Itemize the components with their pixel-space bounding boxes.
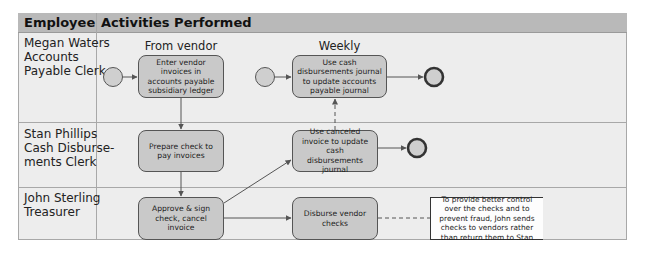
end-event-1 [425, 68, 443, 86]
activity-prepare-check: Prepare check to pay invoices [138, 130, 224, 172]
annotation-note: To provide better control over the check… [430, 197, 543, 240]
start-event-2 [256, 68, 275, 87]
activity-approve-sign: Approve & sign check, cancel invoice [138, 197, 224, 240]
activity-update-cd-journal: Use canceled invoice to update cash disb… [292, 130, 378, 172]
end-event-2 [408, 139, 426, 157]
start-event-1 [104, 68, 123, 87]
swimlane-diagram: Employee Activities Performed Megan Wate… [0, 0, 646, 265]
activity-update-ap-journal: Use cash disbursements journal to update… [292, 55, 387, 98]
activity-disburse-checks: Disburse vendor checks [292, 197, 378, 240]
activity-enter-invoices: Enter vendor invoices in accounts payabl… [138, 55, 224, 98]
